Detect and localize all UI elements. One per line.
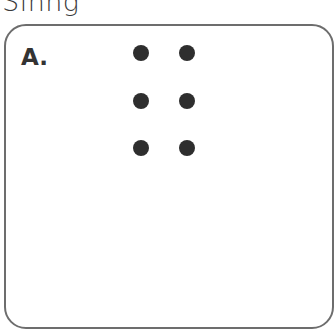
option-label: A. <box>21 44 48 70</box>
braille-dot-icon <box>133 45 149 61</box>
braille-dot-icon <box>179 140 195 156</box>
braille-dot-icon <box>179 93 195 109</box>
option-card[interactable] <box>4 24 334 329</box>
braille-dot-icon <box>179 45 195 61</box>
braille-dot-icon <box>133 93 149 109</box>
page-title: Sinng <box>2 0 80 17</box>
braille-dot-icon <box>133 140 149 156</box>
